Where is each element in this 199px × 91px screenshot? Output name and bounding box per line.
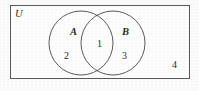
region-b-only-number: 3	[122, 51, 127, 61]
set-a-label: A	[70, 27, 77, 38]
region-outside-number: 4	[172, 60, 177, 70]
set-b-label: B	[122, 27, 129, 38]
region-intersection-number: 1	[97, 39, 102, 49]
universal-set-label: U	[15, 9, 23, 20]
venn-diagram-figure: U A B 2 1 3 4	[0, 0, 199, 91]
region-a-only-number: 2	[64, 51, 69, 61]
